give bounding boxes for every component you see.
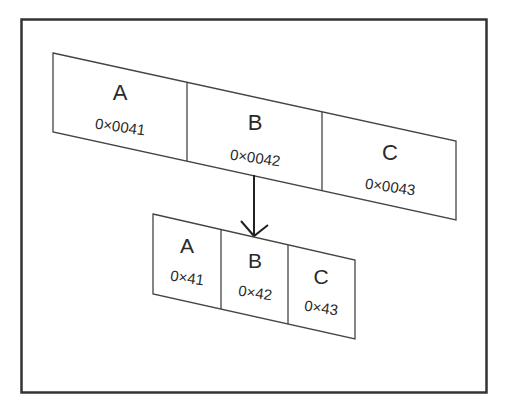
conversion-arrow xyxy=(241,175,268,236)
wide-cell-c-letter: C xyxy=(382,140,398,165)
narrow-cell-a-letter: A xyxy=(180,234,194,257)
wide-cell-a-letter: A xyxy=(113,80,128,105)
narrow-cell-b-letter: B xyxy=(248,249,262,272)
narrow-cell-c-letter: C xyxy=(313,265,328,288)
encoding-diagram: A 0×0041 B 0×0042 C 0×0043 A 0×41 B 0 xyxy=(0,0,507,407)
wide-cell-b-letter: B xyxy=(248,110,263,135)
